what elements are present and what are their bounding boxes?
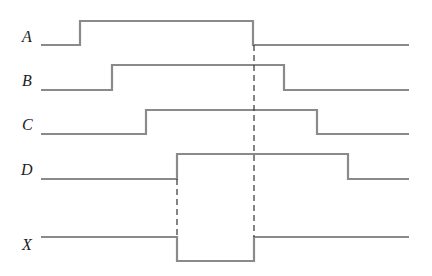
signal-label-d: D: [20, 161, 33, 178]
waveform-d: [41, 154, 409, 179]
waveform-b: [41, 65, 409, 90]
signal-labels: A B C D X: [20, 28, 33, 253]
waveform-a: [41, 21, 409, 45]
waveform-x: [41, 237, 409, 261]
timing-diagram: A B C D X: [0, 0, 432, 276]
waveforms: [41, 21, 409, 261]
waveform-c: [41, 110, 409, 134]
signal-label-a: A: [21, 28, 32, 45]
signal-label-x: X: [21, 236, 33, 253]
signal-label-b: B: [22, 72, 32, 89]
signal-label-c: C: [22, 116, 33, 133]
dashed-guides: [177, 45, 254, 237]
